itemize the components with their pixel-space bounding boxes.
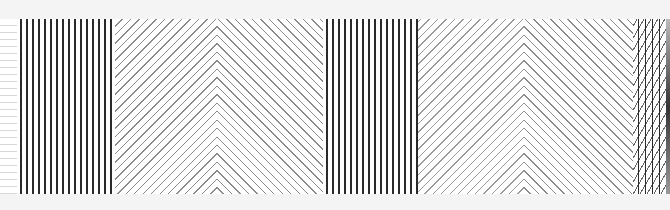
photo-edge-shadow bbox=[666, 19, 670, 194]
panel-horizontal-lines bbox=[0, 19, 17, 194]
panel-diagonal-right-half-1 bbox=[217, 19, 323, 194]
panel-vertical-diagonal-cross bbox=[633, 19, 666, 194]
panel-diagonal-left-half-2 bbox=[418, 19, 524, 194]
panel-diagonal-right-half-2 bbox=[524, 19, 633, 194]
panel-vertical-lines-2 bbox=[323, 19, 418, 194]
panel-diagonal-left-half-1 bbox=[115, 19, 217, 194]
panel-vertical-lines-1 bbox=[17, 19, 115, 194]
